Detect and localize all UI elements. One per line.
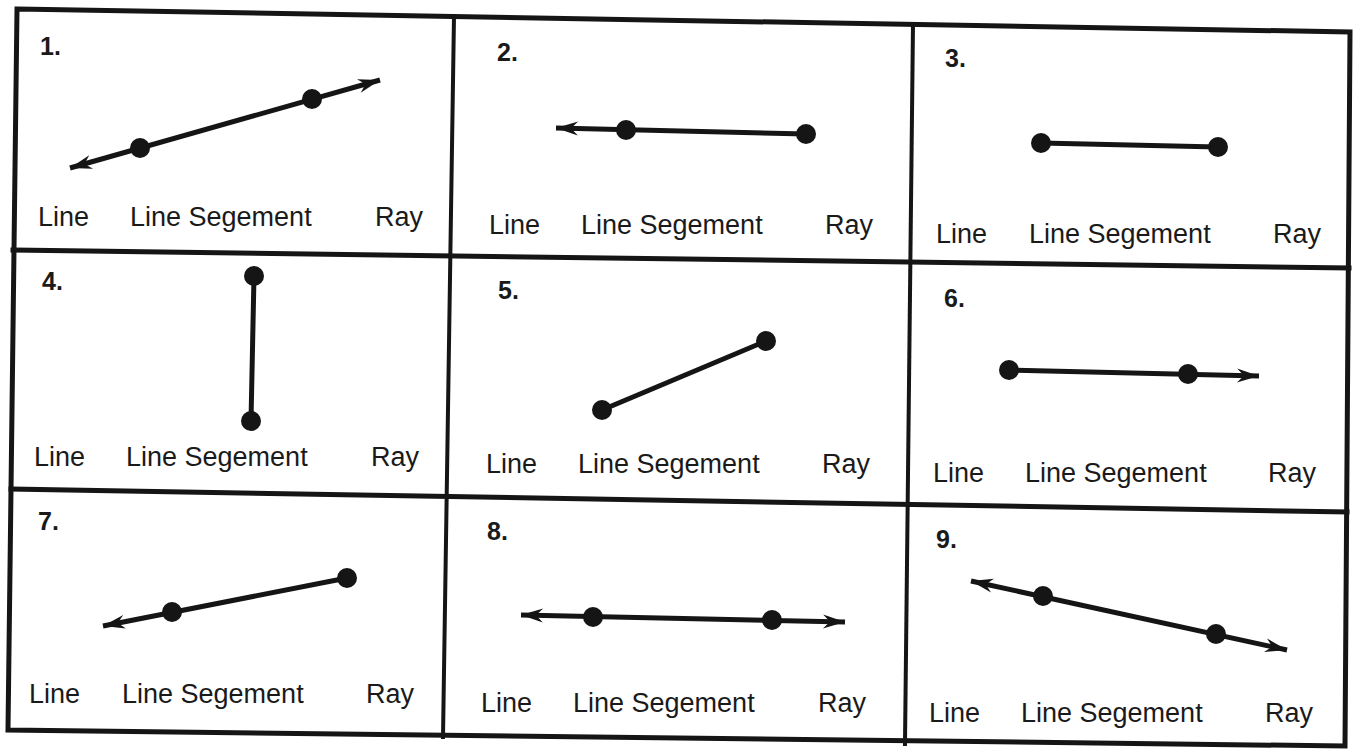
option-line-segment[interactable]: Line Segement <box>581 210 763 240</box>
figure-stroke <box>521 615 845 622</box>
figure-stroke <box>103 578 347 626</box>
figure-line <box>971 579 1287 652</box>
problem-number: 2. <box>497 38 518 66</box>
point-dot-icon <box>337 568 357 588</box>
problem-cell: 5.LineLine SegementRay <box>486 276 871 479</box>
grid-divider-h1 <box>13 250 1349 268</box>
figure-stroke <box>1009 370 1259 376</box>
problem-number: 8. <box>487 517 508 545</box>
option-line[interactable]: Line <box>486 449 537 479</box>
point-dot-icon <box>1178 364 1198 384</box>
option-ray[interactable]: Ray <box>1265 698 1314 728</box>
problem-number: 7. <box>38 507 59 535</box>
option-ray[interactable]: Ray <box>1268 458 1317 488</box>
figure-line <box>521 607 845 630</box>
option-ray[interactable]: Ray <box>366 679 415 709</box>
option-line[interactable]: Line <box>34 442 85 472</box>
problem-number: 5. <box>498 276 519 304</box>
problem-number: 6. <box>944 284 965 312</box>
grid-divider-v2 <box>905 24 913 744</box>
option-line-segment[interactable]: Line Segement <box>122 679 304 709</box>
problem-number: 4. <box>42 267 63 295</box>
problem-cell: 8.LineLine SegementRay <box>481 517 867 718</box>
point-dot-icon <box>1031 133 1051 153</box>
figure-stroke <box>70 80 380 168</box>
option-line-segment[interactable]: Line Segement <box>573 688 755 718</box>
point-dot-icon <box>583 607 603 627</box>
problem-cell: 2.LineLine SegementRay <box>489 38 874 240</box>
figure-segment <box>592 331 776 420</box>
problem-cell: 1.LineLine SegementRay <box>38 32 424 232</box>
point-dot-icon <box>762 610 782 630</box>
option-line[interactable]: Line <box>38 202 89 232</box>
problem-cell: 9.LineLine SegementRay <box>929 525 1314 728</box>
problem-number: 1. <box>40 32 61 60</box>
problem-cell: 6.LineLine SegementRay <box>933 284 1317 488</box>
figure-stroke <box>251 276 254 421</box>
point-dot-icon <box>241 411 261 431</box>
option-line[interactable]: Line <box>29 679 80 709</box>
problem-cell: 3.LineLine SegementRay <box>936 44 1322 249</box>
figure-stroke <box>602 341 766 410</box>
option-ray[interactable]: Ray <box>822 449 871 479</box>
option-ray[interactable]: Ray <box>825 210 874 240</box>
point-dot-icon <box>1208 137 1228 157</box>
figure-stroke <box>1041 143 1218 147</box>
point-dot-icon <box>756 331 776 351</box>
problem-cell: 7.LineLine SegementRay <box>29 507 415 709</box>
option-line-segment[interactable]: Line Segement <box>126 442 308 472</box>
figure-line <box>70 79 380 168</box>
problem-number: 3. <box>945 44 966 72</box>
worksheet: 1.LineLine SegementRay2.LineLine Segemen… <box>0 0 1357 749</box>
point-dot-icon <box>999 360 1019 380</box>
point-dot-icon <box>1206 624 1226 644</box>
grid-divider-v1 <box>443 16 454 737</box>
point-dot-icon <box>162 602 182 622</box>
figure-stroke <box>556 128 806 134</box>
point-dot-icon <box>244 266 264 286</box>
figure-ray <box>556 120 816 144</box>
problem-cell: 4.LineLine SegementRay <box>34 266 420 472</box>
point-dot-icon <box>302 89 322 109</box>
option-ray[interactable]: Ray <box>371 442 420 472</box>
option-line[interactable]: Line <box>933 458 984 488</box>
point-dot-icon <box>592 400 612 420</box>
point-dot-icon <box>796 124 816 144</box>
problem-number: 9. <box>936 525 957 553</box>
point-dot-icon <box>1033 586 1053 606</box>
figure-ray <box>999 360 1259 384</box>
option-line[interactable]: Line <box>481 688 532 718</box>
figure-segment <box>241 266 264 431</box>
option-ray[interactable]: Ray <box>1273 219 1322 249</box>
option-line[interactable]: Line <box>929 698 980 728</box>
option-line-segment[interactable]: Line Segement <box>1021 698 1203 728</box>
option-line[interactable]: Line <box>489 210 540 240</box>
option-line-segment[interactable]: Line Segement <box>1029 219 1211 249</box>
grid-divider-h2 <box>11 489 1347 512</box>
option-ray[interactable]: Ray <box>375 202 424 232</box>
option-line-segment[interactable]: Line Segement <box>578 449 760 479</box>
point-dot-icon <box>616 120 636 140</box>
point-dot-icon <box>130 138 150 158</box>
figure-stroke <box>971 581 1287 650</box>
option-ray[interactable]: Ray <box>818 688 867 718</box>
problem-cells: 1.LineLine SegementRay2.LineLine Segemen… <box>29 32 1322 728</box>
option-line-segment[interactable]: Line Segement <box>130 202 312 232</box>
option-line[interactable]: Line <box>936 219 987 249</box>
figure-segment <box>1031 133 1228 157</box>
figure-ray <box>103 568 357 629</box>
option-line-segment[interactable]: Line Segement <box>1025 458 1207 488</box>
